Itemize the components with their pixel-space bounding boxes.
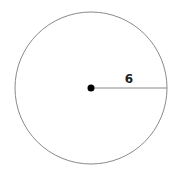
radius-label: 6 bbox=[125, 72, 133, 86]
center-point bbox=[88, 85, 95, 92]
circle-figure: 6 bbox=[0, 0, 177, 172]
circle-diagram: 6 bbox=[0, 0, 177, 172]
